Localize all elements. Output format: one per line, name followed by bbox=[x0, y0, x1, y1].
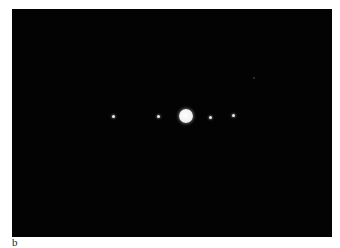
moon-2 bbox=[157, 115, 160, 118]
panel-label: b bbox=[12, 236, 18, 248]
jupiter-photograph bbox=[12, 9, 332, 237]
moon-3 bbox=[209, 116, 212, 119]
moon-4 bbox=[232, 114, 235, 117]
jupiter-disk bbox=[179, 109, 193, 123]
faint-star bbox=[253, 77, 255, 79]
moon-1 bbox=[112, 115, 115, 118]
